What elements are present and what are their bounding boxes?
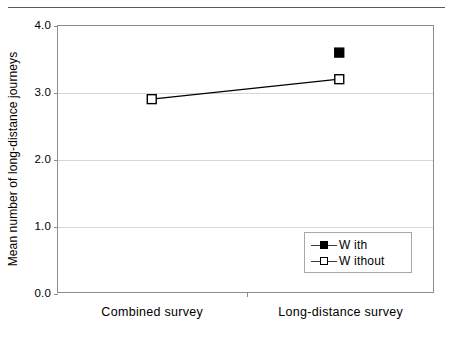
top-horizontal-rule <box>8 7 445 8</box>
x-tick-label: Long-distance survey <box>278 306 403 319</box>
data-point-without <box>147 95 156 104</box>
figure: Mean number of long-distance journeys 0.… <box>0 0 452 338</box>
y-tick-label: 0.0 <box>34 288 51 300</box>
series-line-without <box>152 79 340 99</box>
data-point-without <box>335 75 344 84</box>
legend-marker-hollow-square-icon <box>311 254 337 268</box>
legend: W ithW ithout <box>304 232 412 273</box>
legend-item-without[interactable]: W ithout <box>311 253 411 269</box>
y-tick-mark <box>54 294 58 295</box>
legend-item-with[interactable]: W ith <box>311 237 411 253</box>
x-tick-label: Combined survey <box>101 306 203 319</box>
y-axis-label: Mean number of long-distance journeys <box>7 52 19 267</box>
x-tick-mark <box>247 292 248 297</box>
y-tick-label: 1.0 <box>34 221 51 233</box>
y-tick-label: 2.0 <box>34 154 51 166</box>
legend-marker-filled-square-icon <box>311 238 337 252</box>
data-point-with <box>335 48 344 57</box>
legend-label: W ith <box>339 239 367 251</box>
y-tick-label: 4.0 <box>34 20 51 32</box>
legend-label: W ithout <box>339 255 385 267</box>
plot-area: 0.01.02.03.04.0 Combined surveyLong-dist… <box>57 25 434 293</box>
y-tick-label: 3.0 <box>34 87 51 99</box>
